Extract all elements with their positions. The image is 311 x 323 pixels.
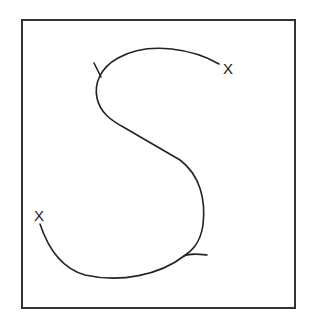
end-marker-bottom: X	[34, 208, 44, 223]
tick-lower	[184, 254, 207, 256]
s-curve-path	[40, 48, 219, 278]
end-marker-top: X	[223, 61, 233, 76]
diagram-canvas: X X	[0, 0, 311, 323]
tick-upper	[94, 63, 101, 77]
s-curve	[0, 0, 311, 323]
